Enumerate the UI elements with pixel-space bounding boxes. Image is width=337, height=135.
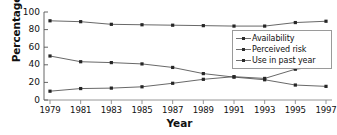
x-tick-label: 1995	[278, 106, 312, 115]
legend-item-availability[interactable]: Availability	[235, 33, 328, 44]
y-tick-label: 100	[14, 8, 40, 17]
x-axis-label-wrap: Year	[0, 117, 337, 129]
x-tick-label: 1981	[64, 106, 98, 115]
chart-legend: Availability Perceived risk Use in past …	[232, 30, 332, 69]
legend-marker-icon	[235, 34, 252, 43]
y-tick-label: 20	[14, 78, 40, 87]
x-tick-label: 1985	[125, 106, 159, 115]
legend-label: Perceived risk	[252, 45, 306, 54]
legend-label: Availability	[252, 34, 294, 43]
legend-label: Use in past year	[252, 56, 315, 65]
x-tick-label: 1989	[186, 106, 220, 115]
legend-marker-icon	[235, 56, 252, 65]
y-tick-label: 60	[14, 43, 40, 52]
series-availability	[48, 19, 327, 27]
y-tick-label: 80	[14, 25, 40, 34]
y-tick-label: 0	[14, 96, 40, 105]
x-axis-label: Year	[144, 117, 192, 129]
legend-item-perceived-risk[interactable]: Perceived risk	[235, 44, 328, 55]
legend-marker-icon	[235, 45, 252, 54]
x-tick-label: 1983	[94, 106, 128, 115]
x-tick-label: 1979	[33, 106, 67, 115]
y-tick-label: 40	[14, 60, 40, 69]
x-tick-label: 1993	[248, 106, 282, 115]
x-tick-label: 1997	[309, 106, 337, 115]
legend-item-use-in-past-year[interactable]: Use in past year	[235, 55, 328, 66]
chart-figure: Percentage 020406080100 1979198119831985…	[0, 0, 337, 135]
x-tick-label: 1987	[156, 106, 190, 115]
x-tick-label: 1991	[217, 106, 251, 115]
